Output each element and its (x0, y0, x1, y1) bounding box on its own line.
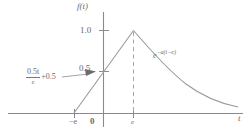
function-plot-figure: f(t) t 1.0 0.5 −e 0 e 0.5t e +0.5 e−a(t−… (0, 0, 250, 137)
y-tick-label-1-0: 1.0 (80, 26, 91, 35)
y-tick-label-0-5: 0.5 (79, 64, 90, 73)
x-axis-title: t (238, 114, 241, 123)
ramp-equation-numerator: 0.5t (26, 68, 40, 76)
ramp-pointer-line (62, 74, 88, 77)
decay-curve (134, 31, 239, 108)
decay-equation-exponent: −a(t−e) (157, 49, 176, 55)
ramp-equation-fraction: 0.5t e (26, 68, 40, 85)
ramp-equation-constant: +0.5 (41, 73, 56, 81)
y-axis-title: f(t) (77, 2, 88, 11)
fraction-bar-icon (26, 77, 40, 78)
ramp-equation-denominator: e (31, 79, 36, 85)
ramp-equation-label: 0.5t e +0.5 (26, 68, 56, 85)
x-tick-label-e: e (131, 119, 134, 126)
x-tick-label-zero: 0 (90, 117, 95, 126)
decay-equation-label: e−a(t−e) (153, 49, 176, 60)
x-tick-label-negative-e: −e (69, 118, 77, 126)
